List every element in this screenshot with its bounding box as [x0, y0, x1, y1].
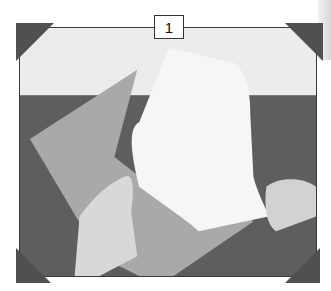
photo-scene [20, 28, 316, 276]
step-number-badge: 1 [154, 15, 184, 39]
photo-frame [19, 27, 317, 277]
corner-mark-top-left [16, 23, 54, 61]
corner-mark-bottom-left [16, 248, 51, 283]
corner-mark-top-right [285, 23, 323, 61]
corner-mark-bottom-right [285, 248, 320, 283]
